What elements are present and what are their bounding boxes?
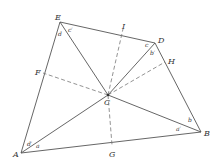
label-D: D [157,36,165,45]
angle-a: a [36,142,40,149]
side-AE [21,22,60,153]
side-DB [155,43,201,132]
angle-c-prime: c′ [68,26,73,33]
angle-d-prime: d′ [27,140,33,147]
label-I: I [121,22,126,31]
label-H: H [167,57,176,66]
angle-b-prime: b′ [150,49,156,56]
label-F: F [34,68,41,77]
geometry-diagram: E D B A C F I H G d c′ c b′ b a′ a d′ [0,0,221,168]
polygon-sides [21,22,201,153]
label-E: E [54,13,61,22]
label-C: C [104,98,110,107]
label-G: G [109,150,116,159]
vertex-to-center-segments [21,22,201,153]
angle-a-prime: a′ [176,125,182,132]
label-A: A [12,150,19,159]
dashed-CF [43,73,108,95]
dashed-CI [108,29,123,95]
angle-b: b [188,116,192,123]
side-ED [60,22,155,43]
angle-c: c [145,41,149,48]
label-B: B [203,129,210,138]
dashed-CH [108,62,165,95]
angle-d: d [58,30,62,37]
segment-BC [108,95,201,132]
segment-DC [108,43,155,95]
point-C-dot [107,94,109,96]
